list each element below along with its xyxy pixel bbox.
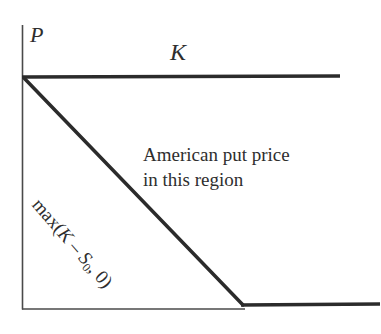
upper-bound-label-k: K: [170, 39, 186, 66]
region-annotation-line-1: American put price: [143, 142, 290, 167]
y-axis-label-p: P: [30, 22, 43, 48]
payoff-zero-line: [241, 304, 380, 305]
upper-bound-k-line: [22, 76, 340, 77]
region-annotation-line-2: in this region: [143, 167, 290, 192]
region-annotation: American put price in this region: [143, 142, 290, 192]
american-put-bounds-diagram: P K American put price in this region ma…: [0, 0, 381, 334]
